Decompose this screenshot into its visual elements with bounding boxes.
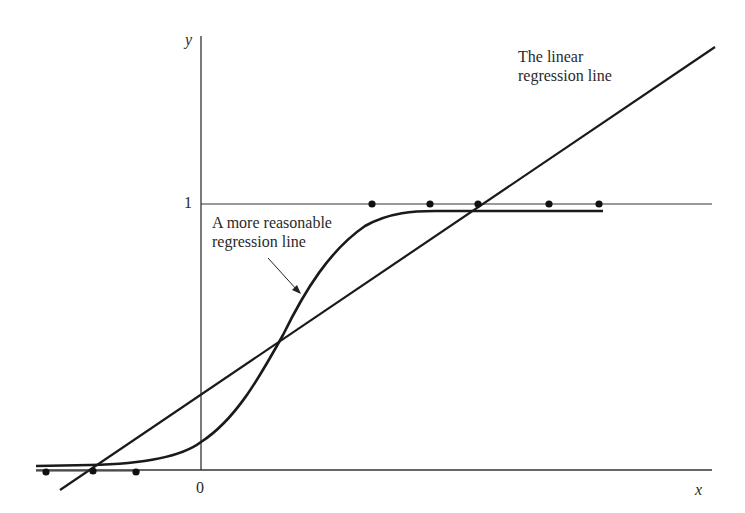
chart-canvas xyxy=(0,0,745,513)
linear-regression-line xyxy=(60,47,715,490)
linear-annotation-line2: regression line xyxy=(518,66,612,85)
annotation-arrow xyxy=(268,258,297,290)
y-axis-label: y xyxy=(185,30,192,49)
curve-annotation: A more reasonable regression line xyxy=(212,213,332,251)
linear-annotation-line1: The linear xyxy=(518,47,612,66)
linear-line-annotation: The linear regression line xyxy=(518,47,612,85)
y-tick-one-label: 1 xyxy=(184,193,192,212)
curve-annotation-line2: regression line xyxy=(212,232,332,251)
x-axis-label: x xyxy=(695,480,702,499)
curve-annotation-line1: A more reasonable xyxy=(212,213,332,232)
origin-label: 0 xyxy=(196,478,204,497)
